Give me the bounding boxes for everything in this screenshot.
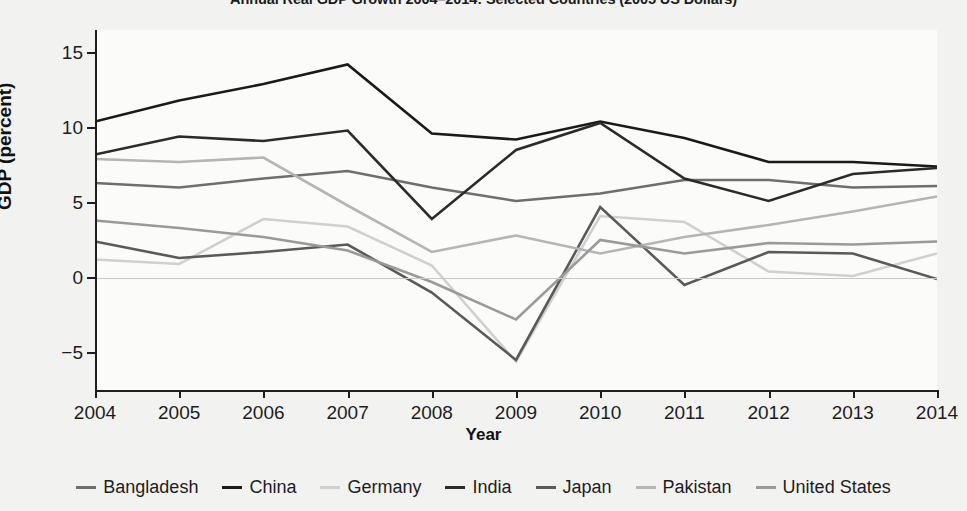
x-tick (853, 390, 855, 398)
legend-item-india[interactable]: India (445, 478, 511, 496)
x-tick (516, 390, 518, 398)
y-tick (87, 127, 95, 129)
x-tick-label: 2014 (916, 402, 958, 424)
legend-label: China (249, 478, 296, 496)
x-tick (263, 390, 265, 398)
legend-label: Germany (347, 478, 421, 496)
x-tick (937, 390, 939, 398)
y-tick (87, 277, 95, 279)
legend-swatch (222, 486, 242, 489)
x-tick-label: 2010 (579, 402, 621, 424)
x-tick-label: 2011 (664, 402, 705, 424)
legend-label: Bangladesh (103, 478, 198, 496)
legend-swatch (445, 486, 465, 489)
legend-swatch (536, 486, 556, 489)
x-tick-label: 2009 (495, 402, 537, 424)
x-tick (348, 390, 350, 398)
x-tick-label: 2012 (747, 402, 789, 424)
legend-item-germany[interactable]: Germany (320, 478, 421, 496)
legend-item-united-states[interactable]: United States (756, 478, 891, 496)
legend-label: India (472, 478, 511, 496)
y-axis-line (95, 30, 97, 392)
x-axis-label: Year (0, 425, 967, 445)
y-tick (87, 52, 95, 54)
legend-swatch (320, 486, 340, 489)
series-lines (95, 30, 937, 390)
x-tick (769, 390, 771, 398)
chart-title: Annual Real GDP Growth 2004–2014: Select… (0, 0, 967, 7)
series-line-bangladesh (95, 171, 937, 201)
legend-item-china[interactable]: China (222, 478, 296, 496)
series-line-germany (95, 216, 937, 362)
y-tick-label: −5 (61, 342, 83, 364)
legend-label: United States (783, 478, 891, 496)
chart-legend: BangladeshChinaGermanyIndiaJapanPakistan… (0, 478, 967, 496)
legend-item-bangladesh[interactable]: Bangladesh (76, 478, 198, 496)
x-axis-line: 2004200520062007200820092010201120122013… (95, 390, 939, 392)
x-tick (600, 390, 602, 398)
gdp-growth-line-chart: Annual Real GDP Growth 2004–2014: Select… (0, 0, 967, 511)
y-tick (87, 352, 95, 354)
y-tick-label: 0 (72, 267, 83, 289)
legend-item-pakistan[interactable]: Pakistan (636, 478, 732, 496)
series-line-japan (95, 207, 937, 360)
x-tick-label: 2005 (158, 402, 200, 424)
x-tick (684, 390, 686, 398)
x-tick-label: 2004 (74, 402, 116, 424)
x-tick-label: 2006 (242, 402, 284, 424)
y-tick-label: 10 (62, 117, 83, 139)
legend-label: Japan (563, 478, 612, 496)
series-line-india (95, 123, 937, 219)
legend-swatch (756, 486, 776, 489)
x-tick (179, 390, 181, 398)
y-tick-label: 5 (72, 192, 83, 214)
plot-area: 151050−5 (95, 30, 937, 390)
legend-swatch (76, 486, 96, 489)
x-tick-label: 2007 (326, 402, 368, 424)
zero-reference-line (95, 278, 937, 279)
x-tick (95, 390, 97, 398)
legend-label: Pakistan (663, 478, 732, 496)
legend-swatch (636, 486, 656, 489)
x-tick-label: 2013 (832, 402, 874, 424)
y-tick (87, 202, 95, 204)
legend-item-japan[interactable]: Japan (536, 478, 612, 496)
y-tick-label: 15 (62, 42, 83, 64)
x-tick-label: 2008 (411, 402, 453, 424)
x-tick (432, 390, 434, 398)
series-line-pakistan (95, 158, 937, 254)
y-axis-label: GDP (percent) (0, 83, 16, 210)
